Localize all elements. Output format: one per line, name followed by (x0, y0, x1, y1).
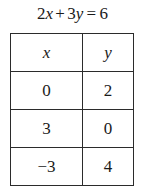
table-row: 3 0 (11, 110, 134, 148)
equation-constant: 6 (99, 4, 108, 23)
cell-y-value: 2 (83, 72, 134, 110)
equation-right-variable: y (76, 4, 84, 23)
equation-equals-sign: = (84, 4, 100, 23)
table-row: 0 2 (11, 72, 134, 110)
cell-x-value: 0 (11, 72, 83, 110)
equation-table-figure: 2x+3y=6 x y 0 2 3 0 −3 4 (0, 0, 145, 190)
column-header-y: y (83, 34, 134, 72)
cell-y-value: 4 (83, 148, 134, 186)
table-header-row: x y (11, 34, 134, 72)
cell-x-value: 3 (11, 110, 83, 148)
column-header-x: x (11, 34, 83, 72)
table-row: −3 4 (11, 148, 134, 186)
equation-left-coefficient: 2 (37, 4, 46, 23)
equation-right-coefficient: 3 (67, 4, 76, 23)
cell-x-value: −3 (11, 148, 83, 186)
equation-operator: + (53, 4, 67, 23)
cell-y-value: 0 (83, 110, 134, 148)
value-table: x y 0 2 3 0 −3 4 (10, 33, 134, 186)
equation-expression: 2x+3y=6 (0, 3, 145, 25)
